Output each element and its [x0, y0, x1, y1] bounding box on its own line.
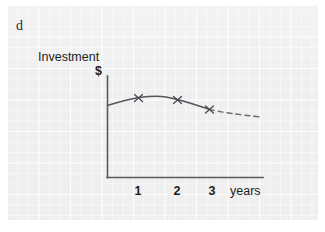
x-tick-label-1: 1	[132, 185, 144, 198]
x-tick-label-2: 2	[171, 185, 183, 198]
investment-curve-solid	[108, 96, 210, 109]
investment-curve-dashed-projection	[210, 109, 262, 117]
line-chart-plot	[0, 0, 325, 232]
figure-panel-d: d Investment $ 1 2 3 years	[0, 0, 325, 232]
x-tick-label-3: 3	[206, 185, 218, 198]
x-axis-title: years	[230, 185, 261, 198]
